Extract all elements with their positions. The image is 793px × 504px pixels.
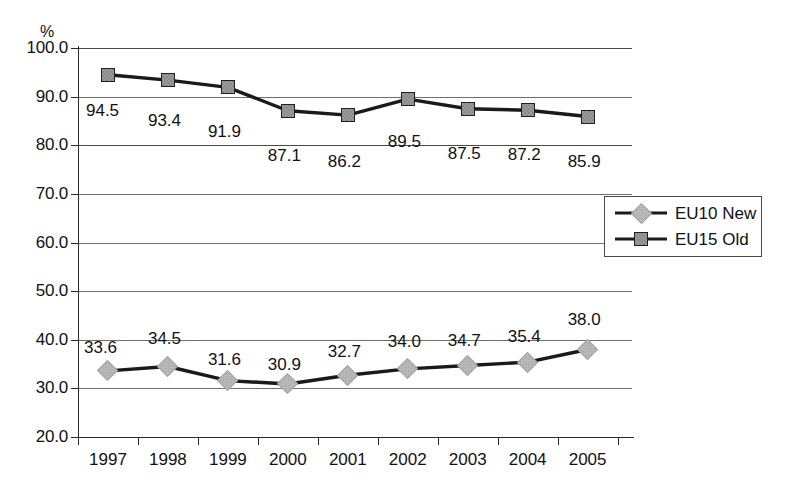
data-label: 32.7 xyxy=(328,343,361,360)
legend: EU10 New EU15 Old xyxy=(604,196,762,257)
square-marker-icon xyxy=(101,68,115,82)
gridline xyxy=(78,145,632,146)
legend-label: EU10 New xyxy=(675,205,756,222)
data-label: 34.5 xyxy=(148,330,181,347)
x-axis-line xyxy=(78,437,634,438)
x-tick-label: 2003 xyxy=(438,450,498,469)
square-marker-icon xyxy=(161,73,175,87)
data-label: 31.6 xyxy=(208,351,241,368)
data-label: 30.9 xyxy=(268,356,301,373)
data-label: 85.9 xyxy=(568,153,601,170)
x-tick-label: 1998 xyxy=(138,450,198,469)
data-label: 89.5 xyxy=(388,133,421,150)
x-tick-label: 2004 xyxy=(498,450,558,469)
legend-entry-eu15-old: EU15 Old xyxy=(613,227,749,251)
gridline xyxy=(78,48,632,49)
x-tick-label: 1997 xyxy=(78,450,138,469)
x-tick-mark xyxy=(378,437,379,445)
gridline xyxy=(78,291,632,292)
x-tick-mark xyxy=(438,437,439,445)
square-marker-icon xyxy=(221,80,235,94)
x-tick-mark xyxy=(78,437,79,445)
x-tick-mark xyxy=(318,437,319,445)
x-tick-label: 1999 xyxy=(198,450,258,469)
y-tick-label: 70.0 xyxy=(0,185,68,202)
y-tick-label: 50.0 xyxy=(0,282,68,299)
gridline xyxy=(78,243,632,244)
x-tick-label: 2000 xyxy=(258,450,318,469)
square-marker-icon xyxy=(281,104,295,118)
x-tick-mark xyxy=(558,437,559,445)
data-label: 38.0 xyxy=(568,311,601,328)
square-marker-icon xyxy=(341,108,355,122)
square-marker-icon xyxy=(581,110,595,124)
legend-label: EU15 Old xyxy=(675,231,749,248)
square-marker-icon xyxy=(461,102,475,116)
y-tick-label: 20.0 xyxy=(0,428,68,445)
x-tick-mark xyxy=(198,437,199,445)
y-axis-line xyxy=(78,46,79,439)
y-tick-label: 90.0 xyxy=(0,88,68,105)
x-tick-mark xyxy=(138,437,139,445)
data-label: 87.1 xyxy=(268,147,301,164)
data-label: 87.2 xyxy=(508,146,541,163)
data-label: 33.6 xyxy=(84,339,117,356)
x-tick-label: 2005 xyxy=(558,450,618,469)
data-label: 87.5 xyxy=(448,145,481,162)
gridline xyxy=(78,388,632,389)
y-tick-label: 40.0 xyxy=(0,331,68,348)
diamond-marker-icon xyxy=(630,202,651,223)
legend-entry-eu10-new: EU10 New xyxy=(613,201,756,225)
y-tick-label: 80.0 xyxy=(0,136,68,153)
gridline xyxy=(78,194,632,195)
data-label: 91.9 xyxy=(208,123,241,140)
data-label: 35.4 xyxy=(508,328,541,345)
y-tick-label: 60.0 xyxy=(0,234,68,251)
data-label: 86.2 xyxy=(328,153,361,170)
legend-swatch-diamond xyxy=(613,205,669,221)
x-tick-label: 2001 xyxy=(318,450,378,469)
square-marker-icon xyxy=(401,92,415,106)
x-tick-label: 2002 xyxy=(378,450,438,469)
data-label: 34.7 xyxy=(448,332,481,349)
data-label: 94.5 xyxy=(86,102,119,119)
y-tick-label: 30.0 xyxy=(0,379,68,396)
y-tick-label: 100.0 xyxy=(0,39,68,56)
data-label: 34.0 xyxy=(388,333,421,350)
line-chart: % 100.090.080.070.060.050.040.030.020.0 … xyxy=(0,0,793,504)
x-tick-mark xyxy=(618,437,619,445)
data-label: 93.4 xyxy=(148,112,181,129)
square-marker-icon xyxy=(634,232,648,246)
x-tick-mark xyxy=(258,437,259,445)
square-marker-icon xyxy=(521,103,535,117)
x-tick-mark xyxy=(498,437,499,445)
gridline xyxy=(78,97,632,98)
legend-swatch-square xyxy=(613,231,669,247)
